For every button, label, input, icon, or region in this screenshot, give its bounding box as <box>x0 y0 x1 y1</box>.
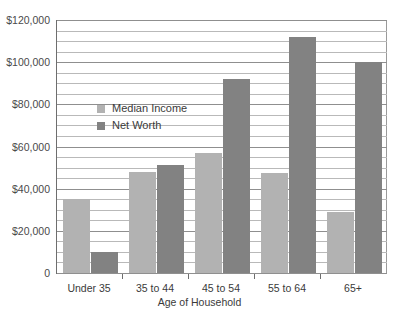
bar <box>63 199 90 273</box>
bar <box>261 173 288 273</box>
legend-swatch-icon <box>97 105 105 113</box>
plot-area <box>56 20 387 274</box>
bar <box>289 37 316 273</box>
gridline-major <box>57 273 387 274</box>
gridline-minor <box>57 41 387 42</box>
chart-legend: Median IncomeNet Worth <box>97 100 187 134</box>
bar <box>223 79 250 273</box>
x-axis-category-label: 35 to 44 <box>136 282 174 294</box>
x-axis-title: Age of Household <box>0 296 399 308</box>
bar <box>195 153 222 273</box>
bar <box>355 62 382 273</box>
x-axis-category-label: 55 to 64 <box>268 282 306 294</box>
y-axis-tick-labels: 0$20,000$40,000$60,000$80,000$100,000$12… <box>0 0 50 315</box>
gridline-minor <box>57 31 387 32</box>
x-axis-tick <box>320 274 321 279</box>
legend-item: Net Worth <box>97 117 187 134</box>
y-axis-tick-label: $40,000 <box>0 183 50 194</box>
legend-swatch-icon <box>97 122 105 130</box>
y-axis-tick-label: $20,000 <box>0 226 50 237</box>
gridline-major <box>57 20 387 21</box>
legend-label: Median Income <box>112 103 187 114</box>
legend-item: Median Income <box>97 100 187 117</box>
bar <box>157 165 184 273</box>
bar <box>91 252 118 273</box>
x-axis-tick <box>188 274 189 279</box>
bar <box>327 212 354 273</box>
x-axis-category-label: 65+ <box>344 282 362 294</box>
x-axis-tick <box>122 274 123 279</box>
y-axis-tick-label: $60,000 <box>0 141 50 152</box>
x-axis-category-label: 45 to 54 <box>202 282 240 294</box>
y-axis-tick-label: 0 <box>0 268 50 279</box>
y-axis-tick-label: $100,000 <box>0 57 50 68</box>
x-axis-tick <box>254 274 255 279</box>
gridline-minor <box>57 73 387 74</box>
y-axis-tick-label: $80,000 <box>0 99 50 110</box>
gridline-major <box>57 62 387 63</box>
x-axis-category-label: Under 35 <box>67 282 110 294</box>
gridline-minor <box>57 52 387 53</box>
y-axis-tick-label: $120,000 <box>0 15 50 26</box>
bar-chart: 0$20,000$40,000$60,000$80,000$100,000$12… <box>0 0 399 315</box>
bar <box>129 172 156 273</box>
legend-label: Net Worth <box>112 120 161 131</box>
